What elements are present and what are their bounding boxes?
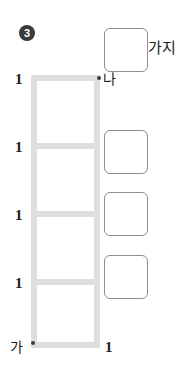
ladder-rung-bottom bbox=[31, 342, 100, 348]
answer-box-2[interactable] bbox=[104, 130, 148, 174]
answer-box-3[interactable] bbox=[104, 192, 148, 236]
vertex-dot-na bbox=[97, 76, 101, 80]
edge-length-label-left-2: 1 bbox=[15, 140, 23, 155]
ladder-rung-1 bbox=[31, 143, 100, 149]
ladder-rung-2 bbox=[31, 211, 100, 217]
worksheet-page: 3 1 1 1 1 1 나 가 가지 bbox=[0, 0, 195, 388]
ladder-diagram bbox=[31, 75, 100, 348]
vertex-dot-ga bbox=[31, 341, 35, 345]
ladder-rung-top bbox=[31, 75, 100, 81]
edge-length-label-bottom: 1 bbox=[105, 340, 113, 355]
vertex-label-ga: 가 bbox=[10, 340, 23, 354]
answer-box-1[interactable] bbox=[104, 28, 148, 72]
vertex-label-na: 나 bbox=[103, 72, 116, 86]
edge-length-label-left-3: 1 bbox=[15, 208, 23, 223]
edge-length-label-left-1: 1 bbox=[15, 72, 23, 87]
answer-box-4[interactable] bbox=[104, 255, 148, 299]
problem-number-badge: 3 bbox=[19, 25, 35, 41]
ladder-rung-3 bbox=[31, 279, 100, 285]
edge-length-label-left-4: 1 bbox=[15, 276, 23, 291]
unit-caption: 가지 bbox=[148, 40, 176, 55]
